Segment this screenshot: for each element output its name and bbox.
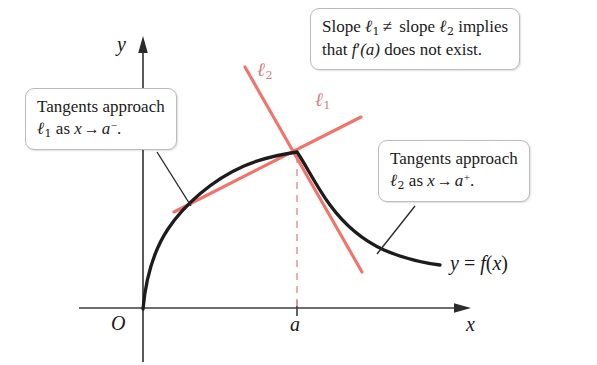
origin-label: O — [111, 312, 125, 335]
right-arrow-icon: → — [435, 172, 455, 189]
callout-right-line1: Tangents approach — [390, 148, 518, 170]
callout-top-line2: that f′(a) does not exist. — [322, 39, 508, 61]
tangent-line-l2 — [245, 67, 362, 272]
x-tick-label-a: a — [290, 313, 300, 336]
equation-paren-close: ) — [501, 252, 508, 274]
leader-line-right — [377, 206, 415, 254]
line-label-l1: ℓ1 — [315, 88, 330, 112]
ell-subscript: 2 — [265, 69, 272, 82]
equation-x: x — [492, 252, 501, 274]
right-arrow-icon: → — [82, 120, 102, 137]
ell-subscript: 1 — [45, 127, 52, 140]
ell-subscript: 1 — [323, 99, 330, 112]
ell-subscript: 2 — [398, 179, 405, 192]
not-equal-icon: ≠ — [380, 17, 395, 36]
line-label-l2: ℓ2 — [257, 58, 272, 82]
callout-tangents-approach-l2: Tangents approach ℓ2 as x→a+. — [378, 140, 530, 202]
x-axis-label: x — [466, 313, 475, 336]
leader-line-left — [157, 152, 191, 206]
equation-equals: = — [459, 252, 480, 274]
ell-subscript: 1 — [373, 25, 380, 38]
curve-equation-label: y = f(x) — [450, 252, 508, 275]
callout-top-line1: Slope ℓ1≠ slope ℓ2 implies — [322, 16, 508, 39]
y-axis — [138, 36, 148, 362]
ell-symbol: ℓ2 — [390, 170, 405, 190]
limit-point-a: a− — [102, 119, 117, 138]
ell-symbol: ℓ2 — [439, 16, 454, 36]
variable-x: x — [427, 171, 435, 190]
callout-slope-not-equal: Slope ℓ1≠ slope ℓ2 implies that f′(a) do… — [310, 8, 520, 70]
tangent-line-l1 — [174, 117, 361, 212]
figure-canvas: Slope ℓ1≠ slope ℓ2 implies that f′(a) do… — [0, 0, 597, 365]
x-axis — [79, 303, 471, 313]
ell-subscript: 2 — [447, 25, 454, 38]
callout-tangents-approach-l1: Tangents approach ℓ1 as x→a−. — [25, 88, 177, 150]
callout-left-line2: ℓ1 as x→a−. — [37, 118, 165, 141]
y-axis-label: y — [117, 33, 126, 56]
ell-symbol: ℓ1 — [37, 118, 52, 138]
limit-point-a: a+ — [455, 171, 470, 190]
equation-y: y — [450, 252, 459, 274]
argument-a: (a) — [360, 40, 380, 59]
ell-symbol: ℓ1 — [365, 16, 380, 36]
callout-left-line1: Tangents approach — [37, 96, 165, 118]
variable-x: x — [74, 119, 82, 138]
callout-right-line2: ℓ2 as x→a+. — [390, 170, 518, 193]
